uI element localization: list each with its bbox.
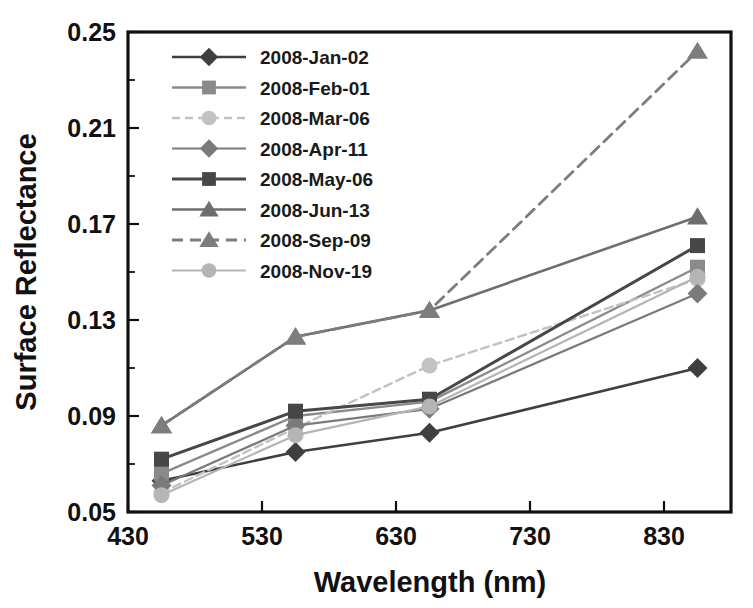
- x-axis-title: Wavelength (nm): [314, 566, 547, 598]
- y-tick-label: 0.21: [67, 114, 116, 142]
- marker-square: [202, 81, 216, 95]
- legend-item-2008-may-06[interactable]: 2008-May-06: [172, 169, 373, 190]
- marker-triangle: [687, 42, 708, 59]
- y-axis-ticks: [128, 32, 139, 512]
- marker-circle: [154, 487, 170, 503]
- marker-circle: [690, 269, 706, 285]
- legend-label: 2008-Jun-13: [260, 200, 370, 221]
- legend-item-2008-jan-02[interactable]: 2008-Jan-02: [172, 47, 369, 68]
- chart-legend: 2008-Jan-022008-Feb-012008-Mar-062008-Ap…: [172, 47, 373, 282]
- marker-circle: [202, 263, 217, 278]
- legend-label: 2008-Sep-09: [260, 230, 371, 251]
- y-tick-label: 0.17: [67, 210, 116, 238]
- series-line: [162, 294, 698, 486]
- legend-label: 2008-Jan-02: [260, 47, 369, 68]
- reflectance-line-chart: 430530630730830 0.050.090.130.170.210.25…: [0, 0, 753, 608]
- x-axis-tick-labels: 430530630730830: [107, 522, 685, 550]
- legend-item-2008-jun-13[interactable]: 2008-Jun-13: [172, 200, 370, 221]
- legend-label: 2008-Nov-19: [260, 261, 372, 282]
- data-series-group: [151, 42, 708, 504]
- x-tick-label: 730: [509, 522, 551, 550]
- x-axis-ticks: [128, 501, 664, 512]
- y-tick-label: 0.25: [67, 18, 116, 46]
- x-tick-label: 630: [375, 522, 417, 550]
- marker-diamond: [420, 423, 440, 443]
- y-tick-label: 0.09: [67, 402, 116, 430]
- marker-triangle: [687, 207, 708, 224]
- y-tick-label: 0.13: [67, 306, 116, 334]
- legend-item-2008-sep-09[interactable]: 2008-Sep-09: [172, 230, 371, 251]
- marker-square: [690, 238, 705, 253]
- marker-circle: [422, 398, 438, 414]
- marker-square: [154, 452, 169, 467]
- x-tick-label: 430: [107, 522, 149, 550]
- y-axis-tick-labels: 0.050.090.130.170.210.25: [67, 18, 116, 526]
- legend-label: 2008-Mar-06: [260, 108, 370, 129]
- marker-diamond: [200, 139, 218, 157]
- marker-square: [288, 404, 303, 419]
- marker-diamond: [200, 48, 218, 66]
- marker-triangle: [151, 416, 172, 433]
- legend-item-2008-feb-01[interactable]: 2008-Feb-01: [172, 78, 370, 99]
- marker-diamond: [688, 358, 708, 378]
- marker-square: [202, 172, 216, 186]
- x-tick-label: 530: [241, 522, 283, 550]
- marker-diamond: [286, 442, 306, 462]
- marker-circle: [288, 427, 304, 443]
- x-tick-label: 830: [643, 522, 685, 550]
- legend-label: 2008-May-06: [260, 169, 373, 190]
- legend-label: 2008-Feb-01: [260, 78, 370, 99]
- marker-circle: [422, 358, 438, 374]
- legend-item-2008-nov-19[interactable]: 2008-Nov-19: [172, 261, 372, 282]
- legend-item-2008-mar-06[interactable]: 2008-Mar-06: [172, 108, 370, 129]
- y-tick-label: 0.05: [67, 498, 116, 526]
- series-2008-sep-09: [151, 42, 708, 434]
- legend-item-2008-apr-11[interactable]: 2008-Apr-11: [172, 139, 368, 160]
- legend-label: 2008-Apr-11: [260, 139, 368, 160]
- marker-diamond: [688, 284, 708, 304]
- y-axis-title: Surface Reflectance: [10, 133, 42, 410]
- chart-container: 430530630730830 0.050.090.130.170.210.25…: [0, 0, 753, 608]
- marker-circle: [202, 111, 217, 126]
